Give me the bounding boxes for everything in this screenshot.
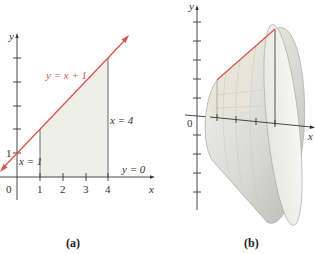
x-axis-label: x <box>148 183 154 195</box>
left-bound-label: x = 1 <box>18 155 42 167</box>
panel-a: y x 0 1 1 2 3 4 y = x + 1 x = 1 x = 4 y … <box>0 30 155 250</box>
y-axis-arrow-icon <box>15 33 18 38</box>
caption-b: (b) <box>244 236 259 250</box>
line-equation-label: y = x + 1 <box>45 69 87 81</box>
right-bound-label: x = 4 <box>109 114 134 126</box>
y-axis-b-arrow-icon <box>195 5 198 10</box>
x-axis-b-label: x <box>307 130 313 142</box>
x-tick-label-1: 1 <box>37 183 43 195</box>
figure: y x 0 1 1 2 3 4 y = x + 1 x = 1 x = 4 y … <box>0 0 315 254</box>
y-axis-b-label: y <box>188 0 194 12</box>
x-axis-arrow-icon <box>150 175 155 178</box>
x-axis-b-arrow-icon <box>310 125 315 129</box>
origin-b-label: 0 <box>187 117 193 129</box>
x-tick-label-2: 2 <box>60 183 66 195</box>
origin-label: 0 <box>6 183 12 195</box>
x-tick-label-4: 4 <box>105 183 111 195</box>
caption-a: (a) <box>66 236 80 250</box>
bottom-bound-label: y = 0 <box>121 163 146 175</box>
y-tick-label-1: 1 <box>6 147 12 159</box>
x-tick-label-3: 3 <box>83 183 89 195</box>
panel-b: y x 0 (b) <box>185 0 315 250</box>
y-axis-label: y <box>8 30 14 42</box>
